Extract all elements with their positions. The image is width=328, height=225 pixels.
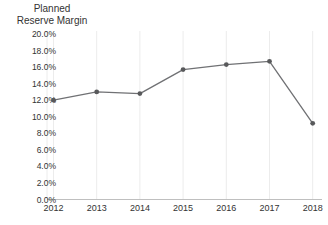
data-point-2018 [310,121,315,126]
y-tick-label: 20.0% [32,29,57,39]
data-point-2014 [138,91,143,96]
x-tick-label: 2017 [259,203,279,213]
y-tick-label: 6.0% [37,145,57,155]
x-tick-label: 2014 [130,203,150,213]
data-point-2013 [94,90,99,95]
line-plot: 0.0%2.0%4.0%6.0%8.0%10.0%12.0%14.0%16.0%… [0,0,328,225]
data-point-2012 [51,98,56,103]
x-tick-label: 2013 [87,203,107,213]
y-tick-label: 18.0% [32,46,57,56]
data-point-2017 [267,59,272,64]
x-tick-label: 2018 [303,203,323,213]
planned-reserve-margin-chart: Planned Reserve Margin 0.0%2.0%4.0%6.0%8… [0,0,328,225]
y-tick-label: 8.0% [37,128,57,138]
y-tick-label: 14.0% [32,79,57,89]
y-tick-label: 16.0% [32,62,57,72]
x-tick-label: 2012 [43,203,63,213]
data-point-2016 [224,62,229,67]
x-tick-label: 2015 [173,203,193,213]
y-tick-label: 10.0% [32,112,57,122]
y-tick-label: 2.0% [37,178,57,188]
y-tick-label: 4.0% [37,161,57,171]
x-tick-label: 2016 [216,203,236,213]
data-point-2015 [181,67,186,72]
